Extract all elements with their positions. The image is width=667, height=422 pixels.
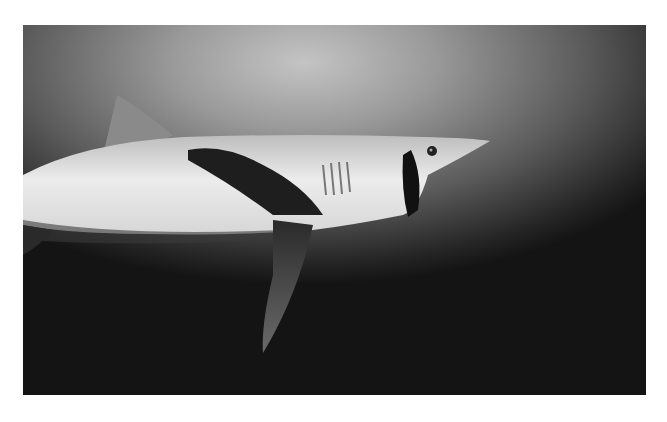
shark-illustration — [23, 25, 646, 395]
shark-photo — [23, 25, 646, 395]
